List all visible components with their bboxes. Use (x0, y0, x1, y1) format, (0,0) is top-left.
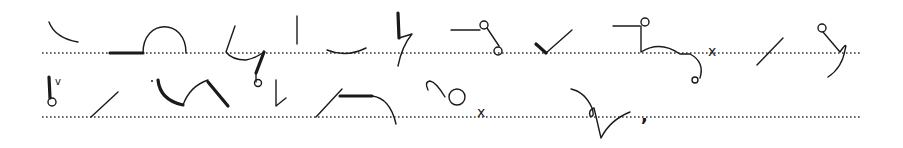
outline-diagonal-16 (316, 89, 342, 117)
outline-hook-17 (426, 81, 445, 97)
comma-mark: , (641, 104, 648, 125)
outline-arc-1 (49, 22, 78, 42)
outline-semicircle-2 (143, 27, 186, 53)
outline-curve-16 (372, 96, 396, 124)
dot-mark-14 (151, 80, 153, 82)
v-mark: v (55, 76, 61, 87)
outline-slant-7 (487, 28, 499, 46)
outline-end-loop-9 (692, 77, 698, 83)
outline-loop-7b (494, 47, 502, 55)
outline-hook-11 (823, 32, 846, 77)
outline-curve-9 (641, 26, 701, 78)
x-mark-2: x (477, 104, 485, 120)
outline-loop-9 (641, 18, 649, 26)
shorthand-canvas: x v x , (0, 0, 903, 148)
outline-hook-15 (276, 80, 286, 106)
outline-check-thin-8 (546, 30, 572, 53)
outline-loop-15 (255, 80, 262, 87)
outline-thick-vertical-6 (398, 13, 399, 38)
outline-curve-14 (183, 80, 208, 105)
outline-diagonal-13 (91, 92, 118, 117)
outline-hook-3 (226, 26, 264, 60)
outline-loop-12 (48, 98, 56, 106)
outline-thick-vertical-12 (49, 77, 50, 98)
outline-loop-v-18 (571, 89, 630, 138)
outline-check-thick-8 (536, 44, 546, 53)
outline-diagonal-10 (757, 38, 783, 65)
outline-thick-arc-14 (158, 80, 183, 105)
outline-thick-slant-14 (208, 82, 228, 106)
outline-loop-11 (818, 24, 826, 32)
outline-circle-17 (449, 89, 465, 105)
x-mark-1: x (708, 43, 716, 59)
